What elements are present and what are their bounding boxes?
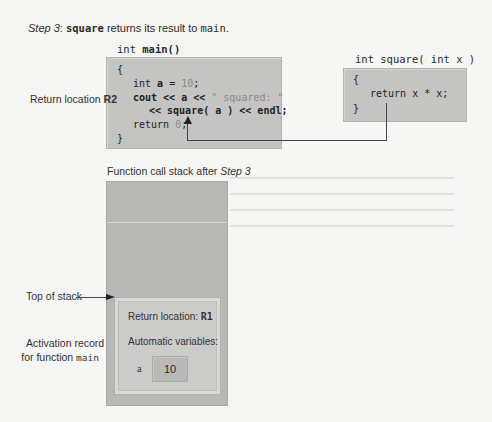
main-close-brace: } — [117, 133, 123, 144]
main-return-line: return 0; — [133, 119, 187, 130]
decl-end: ; — [193, 78, 199, 89]
record-auto-vars-label: Automatic variables: — [128, 336, 218, 347]
activation-label-prefix: for function — [21, 351, 76, 363]
caption-target: main — [200, 22, 225, 34]
activation-record-main: Return location: R1 Automatic variables:… — [115, 298, 220, 394]
record-return-location-id: R1 — [201, 311, 213, 322]
return-arrow-vertical-right — [386, 103, 387, 140]
main-code-box: { int a = 10; cout << a << " squared: " … — [106, 57, 282, 149]
square-body-line: return x * x; — [370, 88, 448, 99]
step-caption: Step 3: square returns its result to mai… — [28, 22, 229, 34]
top-of-stack-arrowhead-icon — [106, 294, 115, 300]
return-arrow-vertical-left — [187, 122, 188, 141]
decl-prefix: int — [133, 78, 157, 89]
square-open-brace: { — [353, 74, 359, 85]
decl-value: 10 — [181, 78, 193, 89]
record-var-name: a — [137, 363, 142, 374]
return-prefix: return — [133, 119, 175, 130]
stack-title-prefix: Function call stack after — [107, 165, 220, 177]
main-signature: int main() — [117, 43, 180, 55]
caption-period: . — [226, 22, 229, 34]
activation-label-fn: main — [76, 352, 99, 363]
top-of-stack-arrow-line — [76, 297, 108, 298]
stack-title: Function call stack after Step 3 — [107, 165, 251, 177]
stack-title-step: Step 3 — [220, 165, 250, 177]
step-label: Step 3 — [28, 22, 60, 34]
activation-record-label: Activation record for function main — [26, 336, 99, 365]
main-signature-name: main() — [142, 43, 180, 55]
main-decl-line: int a = 10; — [133, 78, 199, 89]
return-location-text: Return location — [30, 93, 104, 105]
return-location-id: R2 — [104, 93, 117, 105]
main-call-line: << square( a ) << endl; — [149, 105, 287, 116]
top-of-stack-label: Top of stack — [26, 290, 82, 302]
square-code-box: { return x * x; } — [343, 68, 467, 122]
main-cout-line: cout << a << " squared: " — [133, 92, 284, 103]
square-close-brace: } — [353, 103, 359, 114]
activation-label-line1: Activation record — [26, 336, 99, 350]
background-bleed-text: ▁▁▁▁▁▁▁▁▁▁▁▁▁▁▁▁▁▁▁▁▁▁▁▁▁▁▁▁▁▁▁▁▁▁▁▁▁▁▁▁… — [230, 165, 480, 305]
caption-fn-name: square — [66, 22, 104, 34]
return-arrowhead-icon — [184, 116, 192, 124]
activation-label-line2: for function main — [16, 350, 99, 365]
decl-eq: = — [163, 78, 181, 89]
return-location-r2-label: Return location R2 — [30, 93, 117, 105]
main-open-brace: { — [117, 64, 123, 75]
main-signature-prefix: int — [117, 43, 142, 55]
cout-prefix: cout << a << — [133, 92, 211, 103]
return-arrow-horizontal — [187, 140, 387, 141]
record-var-value: 10 — [152, 356, 188, 382]
stack-highlight-line — [107, 222, 227, 223]
record-return-location-prefix: Return location: — [128, 311, 201, 322]
cout-string: " squared: " — [211, 92, 283, 103]
caption-middle-text: returns its result to — [104, 22, 201, 34]
record-return-location: Return location: R1 — [128, 311, 213, 322]
square-signature: int square( int x ) — [355, 53, 475, 65]
